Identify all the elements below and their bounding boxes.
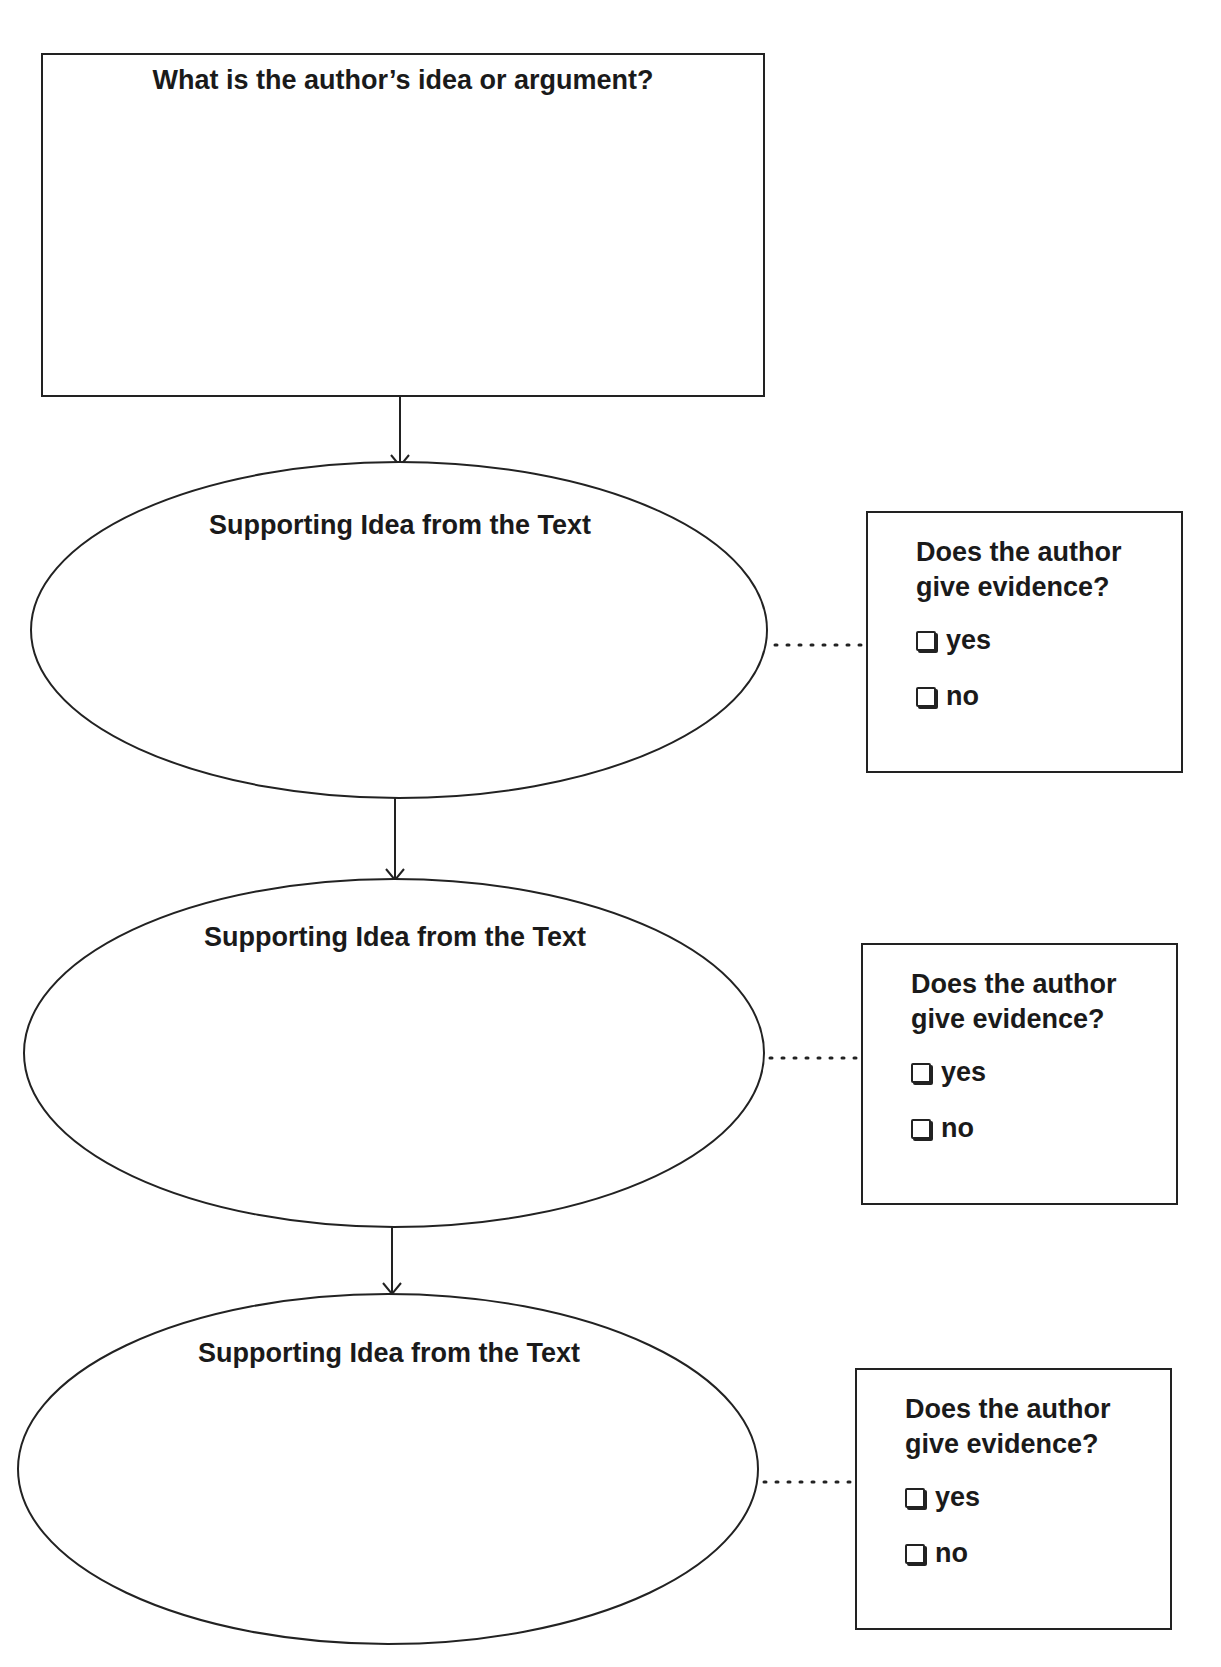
checkbox-empty-icon[interactable] <box>916 687 936 707</box>
option-label: no <box>935 1538 968 1569</box>
supporting-idea-label-1: Supporting Idea from the Text <box>150 510 650 541</box>
supporting-idea-label-2: Supporting Idea from the Text <box>145 922 645 953</box>
evidence-question-line1: Does the author <box>916 535 1122 570</box>
evidence-question-line2: give evidence? <box>905 1427 1111 1462</box>
evidence-question-line2: give evidence? <box>911 1002 1117 1037</box>
checkbox-empty-icon[interactable] <box>911 1119 931 1139</box>
supporting-idea-label-3: Supporting Idea from the Text <box>139 1338 639 1369</box>
option-label: no <box>946 681 979 712</box>
arrow-down-icon <box>383 1227 401 1294</box>
option-label: yes <box>941 1057 986 1088</box>
evidence-question: Does the author give evidence? <box>911 967 1117 1037</box>
option-label: yes <box>946 625 991 656</box>
evidence-question-line1: Does the author <box>911 967 1117 1002</box>
checkbox-empty-icon[interactable] <box>916 631 936 651</box>
evidence-option-yes[interactable]: yes <box>911 1057 986 1088</box>
evidence-question: Does the author give evidence? <box>905 1392 1111 1462</box>
evidence-box-2: Does the author give evidence? yes no <box>861 943 1178 1205</box>
evidence-box-3: Does the author give evidence? yes no <box>855 1368 1172 1630</box>
author-argument-question: What is the author’s idea or argument? <box>43 65 763 96</box>
arrow-down-icon <box>391 397 409 466</box>
option-label: no <box>941 1113 974 1144</box>
author-argument-box[interactable]: What is the author’s idea or argument? <box>41 53 765 397</box>
checkbox-empty-icon[interactable] <box>905 1544 925 1564</box>
evidence-option-yes[interactable]: yes <box>905 1482 980 1513</box>
evidence-question-line2: give evidence? <box>916 570 1122 605</box>
evidence-question: Does the author give evidence? <box>916 535 1122 605</box>
evidence-question-line1: Does the author <box>905 1392 1111 1427</box>
evidence-option-no[interactable]: no <box>911 1113 974 1144</box>
evidence-option-yes[interactable]: yes <box>916 625 991 656</box>
option-label: yes <box>935 1482 980 1513</box>
evidence-option-no[interactable]: no <box>905 1538 968 1569</box>
arrow-down-icon <box>386 798 404 880</box>
checkbox-empty-icon[interactable] <box>911 1063 931 1083</box>
evidence-box-1: Does the author give evidence? yes no <box>866 511 1183 773</box>
checkbox-empty-icon[interactable] <box>905 1488 925 1508</box>
evidence-option-no[interactable]: no <box>916 681 979 712</box>
